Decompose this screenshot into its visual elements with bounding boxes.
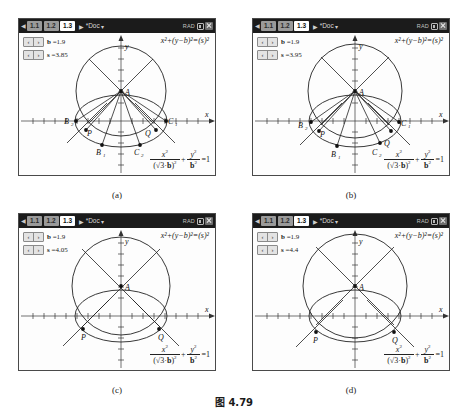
status-area: RAD — [183, 217, 213, 225]
chevron-left-icon[interactable]: ◀ — [255, 218, 260, 224]
svg-text:2: 2 — [71, 122, 74, 127]
ellipse-equation-a: x2 (√3·b)2 + y2 b2 =1 — [150, 149, 210, 170]
svg-text:2: 2 — [141, 153, 144, 158]
document-name: *Doc — [86, 23, 100, 30]
tab-1-2[interactable]: 1.2 — [278, 216, 293, 226]
plus-sign-b: + — [415, 155, 420, 164]
point-label-C1: C — [401, 119, 407, 128]
y-axis-arrow — [353, 230, 358, 236]
chevron-right-icon[interactable]: ▶ — [79, 218, 84, 225]
point-label-B1: B — [331, 150, 336, 159]
ellipse-den-y-a: b2 — [187, 159, 200, 170]
ellipse-num-x-a: x2 — [159, 149, 171, 159]
point-label-P: P — [319, 130, 325, 139]
calculator-screen-a: ◀ 1.1 1.2 1.3 ▶ *Doc ▾ RAD ‹ › — [18, 18, 216, 176]
close-icon[interactable] — [205, 217, 213, 225]
point-label-P: P — [86, 129, 92, 138]
panel-a: ◀ 1.1 1.2 1.3 ▶ *Doc ▾ RAD ‹ › — [0, 8, 234, 204]
tab-1-2[interactable]: 1.2 — [44, 216, 59, 226]
calculator-screen-c: ◀ 1.1 1.2 1.3 ▶ *Doc ▾ RAD ‹ › — [18, 213, 216, 371]
ellipse-num-x-c: x2 — [159, 344, 171, 354]
ellipse-den-y-c: b2 — [187, 354, 200, 365]
chevron-left-icon[interactable]: ◀ — [255, 23, 260, 29]
ellipse-den-x-d: (√3·b)2 — [384, 354, 413, 365]
plus-sign-d: + — [415, 350, 420, 359]
angle-mode-badge: RAD — [417, 218, 429, 224]
axis-label-x: x — [438, 110, 443, 119]
chevron-down-icon[interactable]: ▾ — [335, 218, 338, 225]
ellipse-term-y-d: y2 b2 — [421, 344, 434, 365]
chevron-down-icon[interactable]: ▾ — [101, 218, 104, 225]
battery-icon — [197, 218, 204, 225]
panel-c: ◀ 1.1 1.2 1.3 ▶ *Doc ▾ RAD ‹ › — [0, 203, 234, 399]
chevron-right-icon[interactable]: ▶ — [313, 218, 318, 225]
svg-text:2: 2 — [379, 153, 382, 158]
angle-mode-badge: RAD — [183, 23, 195, 29]
point-label-B2: B — [298, 121, 303, 130]
ellipse-equation-b: x2 (√3·b)2 + y2 b2 =1 — [384, 149, 444, 170]
close-icon[interactable] — [205, 22, 213, 30]
point-label-P: P — [80, 333, 86, 342]
svg-text:1: 1 — [103, 153, 106, 158]
x-axis-arrow — [209, 119, 215, 124]
point-label-B1: B — [96, 148, 101, 157]
tab-1-3[interactable]: 1.3 — [60, 216, 75, 226]
tab-1-1[interactable]: 1.1 — [261, 21, 276, 31]
title-bar-c: ◀ 1.1 1.2 1.3 ▶ *Doc ▾ RAD — [19, 214, 215, 228]
y-axis-arrow — [119, 230, 124, 236]
chevron-right-icon[interactable]: ▶ — [313, 23, 318, 30]
close-icon[interactable] — [439, 217, 447, 225]
tab-1-3[interactable]: 1.3 — [60, 21, 75, 31]
chevron-right-icon[interactable]: ▶ — [79, 23, 84, 30]
chevron-left-icon[interactable]: ◀ — [21, 23, 26, 29]
tab-1-1[interactable]: 1.1 — [261, 216, 276, 226]
ellipse-den-y-d: b2 — [421, 354, 434, 365]
tab-1-3[interactable]: 1.3 — [294, 216, 309, 226]
status-area: RAD — [183, 22, 213, 30]
ellipse-num-y-c: y2 — [187, 344, 199, 354]
svg-text:2: 2 — [305, 126, 308, 131]
point-label-A: A — [124, 88, 130, 97]
figure-panels-grid: ◀ 1.1 1.2 1.3 ▶ *Doc ▾ RAD ‹ › — [0, 0, 468, 392]
ellipse-num-x-d: x2 — [393, 344, 405, 354]
chevron-down-icon[interactable]: ▾ — [101, 23, 104, 30]
tab-1-2[interactable]: 1.2 — [44, 21, 59, 31]
tab-1-1[interactable]: 1.1 — [27, 21, 42, 31]
ellipse-term-x-b: x2 (√3·b)2 — [384, 149, 413, 170]
ellipse-num-y-d: y2 — [421, 344, 433, 354]
battery-icon — [431, 218, 438, 225]
subcaption-a: (a) — [0, 190, 234, 200]
title-bar-b: ◀ 1.1 1.2 1.3 ▶ *Doc ▾ RAD — [253, 19, 449, 33]
calculator-screen-b: ◀ 1.1 1.2 1.3 ▶ *Doc ▾ RAD ‹ › — [252, 18, 450, 176]
tab-1-2[interactable]: 1.2 — [278, 21, 293, 31]
tab-1-1[interactable]: 1.1 — [27, 216, 42, 226]
ellipse-term-x-d: x2 (√3·b)2 — [384, 344, 413, 365]
ellipse-den-x-a: (√3·b)2 — [150, 159, 179, 170]
ellipse-term-x-c: x2 (√3·b)2 — [150, 344, 179, 365]
document-name: *Doc — [320, 218, 334, 225]
chevron-down-icon[interactable]: ▾ — [335, 23, 338, 30]
calculator-screen-d: ◀ 1.1 1.2 1.3 ▶ *Doc ▾ RAD ‹ › — [252, 213, 450, 371]
ellipse-term-y-a: y2 b2 — [187, 149, 200, 170]
status-area: RAD — [417, 22, 447, 30]
tab-1-3[interactable]: 1.3 — [294, 21, 309, 31]
ellipse-term-y-c: y2 b2 — [187, 344, 200, 365]
ellipse-den-y-b: b2 — [421, 159, 434, 170]
status-area: RAD — [417, 217, 447, 225]
axis-label-y: y — [124, 42, 129, 51]
x-axis-arrow — [443, 314, 449, 319]
document-name: *Doc — [86, 218, 100, 225]
ellipse-num-x-b: x2 — [393, 149, 405, 159]
ellipse-equation-d: x2 (√3·b)2 + y2 b2 =1 — [384, 344, 444, 365]
close-icon[interactable] — [439, 22, 447, 30]
angle-mode-badge: RAD — [417, 23, 429, 29]
svg-text:1: 1 — [175, 122, 178, 127]
ellipse-den-x-b: (√3·b)2 — [384, 159, 413, 170]
y-axis-arrow — [353, 35, 358, 41]
ellipse-rhs-d: =1 — [435, 350, 444, 359]
chevron-left-icon[interactable]: ◀ — [21, 218, 26, 224]
axis-label-x: x — [438, 305, 443, 314]
y-axis-arrow — [119, 35, 124, 41]
ellipse-den-x-c: (√3·b)2 — [150, 354, 179, 365]
svg-text:1: 1 — [338, 155, 341, 160]
